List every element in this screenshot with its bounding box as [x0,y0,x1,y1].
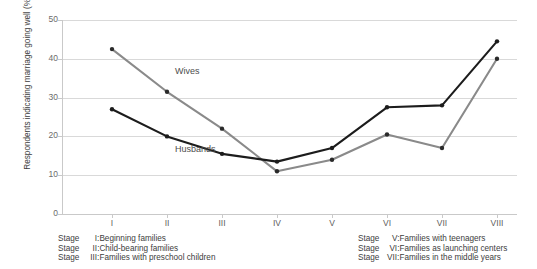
legend-stage-text: Families with teenagers [399,234,485,244]
legend-stage-text: Child-bearing families [99,244,178,254]
data-point-wives-VIII [495,57,499,61]
legend-stage-number: II: [79,244,99,254]
data-point-wives-IV [275,169,279,173]
legend-stage-word: Stage [58,244,79,254]
data-point-husbands-VI [385,105,389,109]
data-point-wives-II [165,90,169,94]
data-point-husbands-III [220,152,224,156]
series-layer [0,0,537,232]
legend-row: Stage III: Families with preschool child… [58,253,215,263]
legend-stage-word: Stage [358,244,379,254]
stage-legend: Stage I: Beginning familiesStage II: Chi… [0,234,537,269]
legend-stage-number: I: [79,234,99,244]
series-line-husbands [112,41,497,161]
data-point-wives-VI [385,132,389,136]
legend-stage-word: Stage [358,234,379,244]
data-point-husbands-I [110,107,114,111]
legend-stage-word: Stage [58,253,79,263]
legend-stage-number: VII: [379,253,399,263]
stage-legend-right: Stage V: Families with teenagersStage VI… [358,234,507,263]
legend-row: Stage VI: Families as launching centers [358,244,507,254]
data-point-husbands-VII [440,103,444,107]
legend-row: Stage VII: Families in the middle years [358,253,507,263]
data-point-wives-III [220,126,224,130]
series-label-husbands: Husbands [175,144,216,154]
data-point-wives-VII [440,146,444,150]
data-point-husbands-II [165,134,169,138]
legend-stage-text: Families as launching centers [399,244,507,254]
legend-stage-text: Beginning families [99,234,165,244]
data-point-husbands-VIII [495,39,499,43]
legend-stage-number: VI: [379,244,399,254]
data-point-wives-V [330,157,334,161]
series-line-wives [112,49,497,171]
series-label-wives: Wives [175,66,200,76]
legend-row: Stage II: Child-bearing families [58,244,215,254]
legend-stage-text: Families with preschool children [99,253,215,263]
legend-stage-word: Stage [358,253,379,263]
data-point-husbands-IV [275,159,279,163]
stage-legend-left: Stage I: Beginning familiesStage II: Chi… [58,234,215,263]
line-chart: 50403020100 Respondents indicating marri… [0,0,537,232]
legend-stage-text: Families in the middle years [399,253,500,263]
legend-row: Stage I: Beginning families [58,234,215,244]
legend-stage-number: V: [379,234,399,244]
data-point-husbands-V [330,146,334,150]
data-point-wives-I [110,47,114,51]
legend-stage-number: III: [79,253,99,263]
legend-stage-word: Stage [58,234,79,244]
legend-row: Stage V: Families with teenagers [358,234,507,244]
